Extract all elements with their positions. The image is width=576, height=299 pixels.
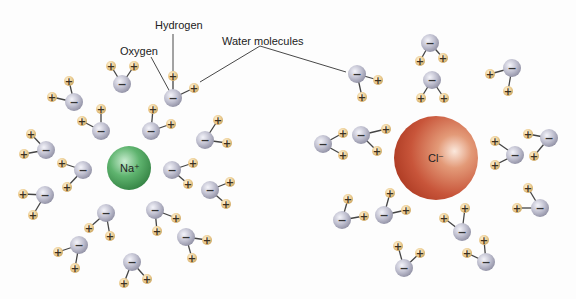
water-molecule: ++− [201,177,235,210]
water-molecules-label: Water molecules [222,35,304,47]
water-molecule: ++− [439,203,471,242]
water-molecule: ++− [47,76,83,112]
water-molecule: ++− [164,71,199,108]
minus-charge-icon: − [40,189,49,202]
plus-charge-icon: + [19,189,27,200]
plus-charge-icon: + [480,235,488,246]
minus-charge-icon: − [74,239,83,252]
minus-charge-icon: − [200,134,209,147]
plus-charge-icon: + [130,61,138,72]
plus-charge-icon: + [20,149,28,160]
plus-charge-icon: + [172,213,180,224]
plus-charge-icon: + [188,253,196,264]
plus-charge-icon: + [461,203,469,214]
plus-charge-icon: + [190,83,198,94]
plus-charge-icon: + [29,210,37,221]
minus-charge-icon: − [318,138,327,151]
plus-charge-icon: + [524,129,532,140]
plus-charge-icon: + [344,194,352,205]
water-molecule: ++− [333,194,369,230]
plus-charge-icon: + [65,76,73,87]
water-molecule: ++− [19,129,55,160]
plus-charge-icon: + [394,241,402,252]
plus-charge-icon: + [386,188,394,199]
water-molecule: ++− [462,235,495,272]
plus-charge-icon: + [97,104,105,115]
plus-charge-icon: + [184,179,192,190]
chloride-ion: Cl⁻ [394,116,478,200]
plus-charge-icon: + [107,61,115,72]
plus-charge-icon: + [360,211,368,222]
water-molecules-leader-line [200,46,346,82]
minus-charge-icon: − [535,202,544,215]
plus-charge-icon: + [373,146,381,157]
plus-charge-icon: + [189,158,197,169]
plus-charge-icon: + [226,177,234,188]
plus-charge-icon: + [63,182,71,193]
sodium-ion: Na⁺ [107,146,151,190]
minus-charge-icon: − [352,68,361,81]
water-molecule: ++− [146,201,181,237]
plus-charge-icon: + [339,150,347,161]
plus-charge-icon: + [85,223,93,234]
plus-charge-icon: + [58,158,66,169]
minus-charge-icon: − [457,226,466,239]
oxygen-leader-line [151,57,170,92]
water-molecule: ++− [196,115,232,150]
plus-charge-icon: + [169,71,177,82]
water-molecule: ++− [375,188,411,225]
minus-charge-icon: − [41,144,50,157]
chloride-ion-label: Cl⁻ [428,152,444,164]
minus-charge-icon: − [205,184,214,197]
plus-charge-icon: + [153,226,161,237]
water-molecule: ++− [53,236,88,274]
plus-charge-icon: + [416,56,424,67]
minus-charge-icon: − [337,214,346,227]
plus-charge-icon: + [222,199,230,210]
minus-charge-icon: − [510,149,519,162]
water-molecule: ++− [416,71,449,104]
plus-charge-icon: + [463,248,471,259]
plus-charge-icon: + [374,75,382,86]
water-molecule: ++− [393,241,425,278]
minus-charge-icon: − [356,129,365,142]
water-molecule: ++− [523,129,558,162]
minus-charge-icon: − [69,96,78,109]
plus-charge-icon: + [382,124,390,135]
plus-charge-icon: + [513,203,521,214]
minus-charge-icon: − [96,125,105,138]
minus-charge-icon: − [117,78,126,91]
plus-charge-icon: + [214,115,222,126]
water-molecule: ++− [106,61,139,94]
plus-charge-icon: + [440,213,448,224]
plus-charge-icon: + [524,183,532,194]
plus-charge-icon: + [491,160,499,171]
minus-charge-icon: − [167,164,176,177]
water-molecule: ++− [77,104,110,141]
water-molecule: ++− [163,158,198,190]
plus-charge-icon: + [48,92,56,103]
water-molecule: ++− [119,253,152,289]
sodium-ion-label: Na⁺ [120,162,140,174]
plus-charge-icon: + [439,53,447,64]
plus-charge-icon: + [120,278,128,289]
water-molecule: ++− [348,65,383,103]
plus-charge-icon: + [71,263,79,274]
water-molecule: ++− [84,204,115,242]
water-molecule: ++− [352,124,391,157]
plus-charge-icon: + [54,247,62,258]
minus-charge-icon: − [425,37,434,50]
minus-charge-icon: − [181,231,190,244]
minus-charge-icon: − [78,164,87,177]
minus-charge-icon: − [168,92,177,105]
minus-charge-icon: − [507,62,516,75]
plus-charge-icon: + [339,128,347,139]
plus-charge-icon: + [106,231,114,242]
minus-charge-icon: − [481,256,490,269]
water-molecule: ++− [314,128,348,161]
plus-charge-icon: + [203,235,211,246]
plus-charge-icon: + [486,69,494,80]
plus-charge-icon: + [530,151,538,162]
plus-charge-icon: + [143,274,151,285]
ion-hydration-diagram: Hydrogen Oxygen Water molecules ++−++−++… [0,0,576,299]
